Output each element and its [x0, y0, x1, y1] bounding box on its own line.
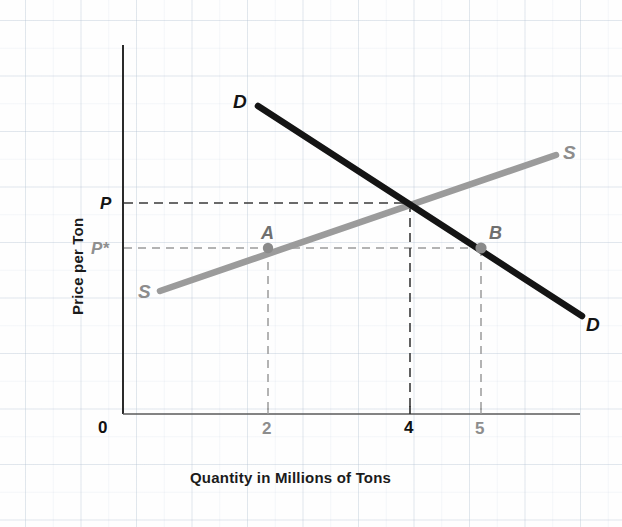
- demand-label-bottom: D: [586, 315, 600, 334]
- point-b-label: B: [489, 224, 502, 242]
- point-a-marker: [263, 243, 273, 253]
- tick-label-2: 2: [262, 420, 271, 437]
- demand-curve: [258, 106, 582, 316]
- x-axis-title: Quantity in Millions of Tons: [190, 470, 391, 485]
- plot-area: [0, 0, 622, 527]
- tick-label-4: 4: [404, 419, 413, 436]
- tick-label-5: 5: [475, 420, 484, 437]
- supply-label-top: S: [563, 143, 576, 162]
- supply-label-bottom: S: [138, 282, 151, 301]
- supply-demand-chart: Price per Ton Quantity in Millions of To…: [0, 0, 622, 527]
- y-axis-title: Price per Ton: [70, 218, 85, 315]
- demand-label-top: D: [233, 92, 247, 111]
- tick-label-0: 0: [98, 419, 107, 436]
- point-b-marker: [475, 242, 486, 253]
- price-label-pstar: P*: [91, 240, 109, 257]
- point-a-label: A: [261, 224, 274, 242]
- price-label-p: P: [100, 195, 111, 212]
